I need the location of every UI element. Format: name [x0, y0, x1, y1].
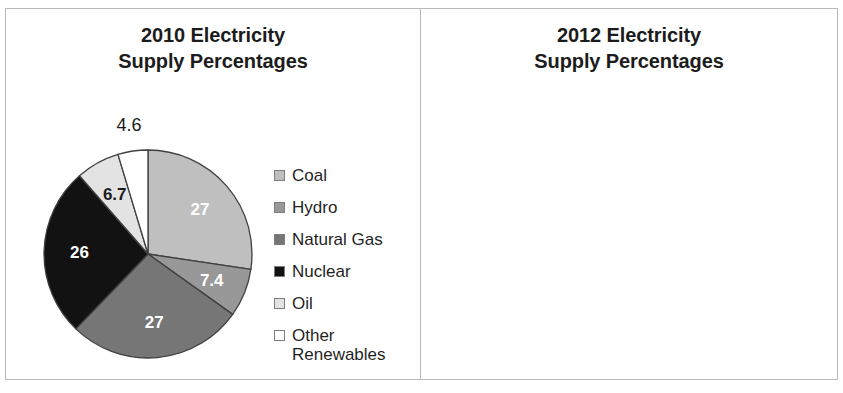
slice-value-hydro: 7.4 [200, 271, 224, 290]
legend-label-hydro: Hydro [292, 198, 337, 217]
legend-swatch-hydro-icon [274, 202, 285, 213]
slice-value-oil: 6.7 [103, 185, 127, 204]
slice-value-natural-gas: 27 [145, 313, 164, 332]
legend-swatch-natural_gas-icon [274, 234, 285, 245]
legend-label-other_renewables: Other Renewables [292, 326, 386, 364]
legend-label-nuclear: Nuclear [292, 262, 351, 281]
chart-panel-2012: 2012 Electricity Supply Percentages 29.3… [420, 8, 838, 380]
figure-root: 2010 Electricity Supply Percentages 277.… [0, 0, 843, 393]
legend-swatch-oil-icon [274, 298, 285, 309]
legend-item-natural_gas[interactable]: Natural Gas [274, 230, 414, 249]
chart-panel-2010: 2010 Electricity Supply Percentages 277.… [5, 8, 421, 380]
legend-label-oil: Oil [292, 294, 313, 313]
legend-item-nuclear[interactable]: Nuclear [274, 262, 414, 281]
legend-item-coal[interactable]: Coal [274, 166, 414, 185]
legend-label-natural_gas: Natural Gas [292, 230, 383, 249]
pie-svg-2010: 277.427266.7 [42, 148, 254, 360]
chart-title-2010: 2010 Electricity Supply Percentages [6, 23, 420, 74]
slice-value-nuclear: 26 [70, 243, 89, 262]
chart-title-2012: 2012 Electricity Supply Percentages [421, 23, 837, 74]
slice-value-other-renewables: 4.6 [117, 115, 142, 136]
legend-swatch-other_renewables-icon [274, 330, 285, 341]
legend-swatch-nuclear-icon [274, 266, 285, 277]
legend-item-hydro[interactable]: Hydro [274, 198, 414, 217]
legend-swatch-coal-icon [274, 170, 285, 181]
legend-2010: CoalHydroNatural GasNuclearOilOther Rene… [274, 166, 414, 377]
pie-chart-2010: 277.427266.7 4.6 [42, 148, 254, 360]
slice-value-coal: 27 [191, 200, 210, 219]
legend-label-coal: Coal [292, 166, 327, 185]
legend-item-other_renewables[interactable]: Other Renewables [274, 326, 414, 364]
legend-item-oil[interactable]: Oil [274, 294, 414, 313]
